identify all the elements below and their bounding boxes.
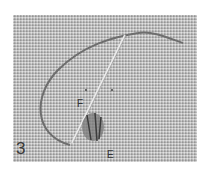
guide-dot: [85, 89, 87, 91]
stitch-illustration: [13, 15, 197, 162]
embroidery-photo: 3 F E: [13, 15, 197, 162]
guide-dot: [111, 89, 113, 91]
step-number: 3: [16, 140, 25, 157]
thread-loop: [41, 32, 183, 145]
label-e: E: [107, 150, 114, 160]
label-f: F: [77, 99, 83, 109]
